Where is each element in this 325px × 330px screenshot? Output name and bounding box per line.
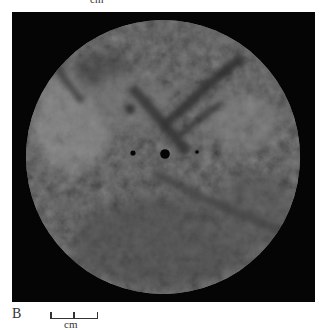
panel-label: B bbox=[12, 306, 21, 322]
small-hole-left bbox=[130, 150, 135, 155]
central-hole bbox=[160, 149, 170, 159]
scale-tick-end bbox=[97, 312, 99, 319]
photo-panel bbox=[12, 12, 315, 302]
disc-photo bbox=[12, 12, 315, 302]
scale-unit-label: cm bbox=[64, 318, 77, 330]
small-hole-right bbox=[195, 150, 199, 154]
top-scale-label: cm bbox=[90, 0, 103, 5]
scale-tick-start bbox=[50, 312, 52, 319]
